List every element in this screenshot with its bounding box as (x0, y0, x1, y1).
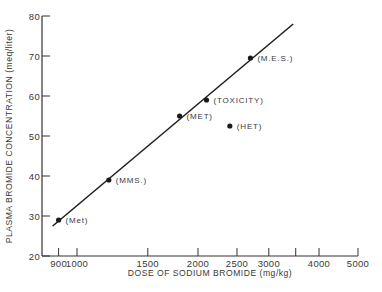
x-axis-ticks: 9001000150020002500300040005000 (50, 248, 369, 269)
data-point-label: (MET) (187, 112, 213, 121)
data-point-marker (177, 113, 182, 118)
x-axis-title: DOSE OF SODIUM BROMIDE (mg/kg) (128, 268, 292, 278)
data-point-label: (HET) (237, 122, 262, 131)
x-tick-label: 900 (50, 258, 67, 269)
axes (42, 16, 358, 256)
x-tick-label: 4000 (308, 258, 330, 269)
y-tick-label: 20 (29, 251, 40, 262)
data-point-label: (Met) (66, 216, 89, 225)
y-tick-label: 70 (29, 51, 40, 62)
data-point-marker (56, 217, 61, 222)
y-axis-title: PLASMA BROMIDE CONCENTRATION (meq/liter) (4, 29, 14, 244)
y-tick-label: 50 (29, 131, 40, 142)
x-tick-label: 1000 (66, 258, 88, 269)
y-tick-label: 30 (29, 211, 40, 222)
data-point-label: (M.E.S.) (257, 54, 293, 63)
data-point-marker (204, 97, 209, 102)
data-point-label: (MMS.) (116, 176, 147, 185)
data-point-marker (227, 123, 232, 128)
data-point-label: (TOXICITY) (214, 96, 264, 105)
y-tick-label: 80 (29, 11, 40, 22)
y-tick-label: 60 (29, 91, 40, 102)
data-point-marker (248, 55, 253, 60)
chart: 9001000150020002500300040005000 20304050… (0, 0, 382, 292)
data-point-marker (106, 177, 111, 182)
y-axis-ticks: 20304050607080 (29, 11, 50, 262)
y-tick-label: 40 (29, 171, 40, 182)
x-tick-label: 5000 (347, 258, 369, 269)
data-points: (Met)(MMS.)(MET)(TOXICITY)(HET)(M.E.S.) (56, 54, 293, 225)
